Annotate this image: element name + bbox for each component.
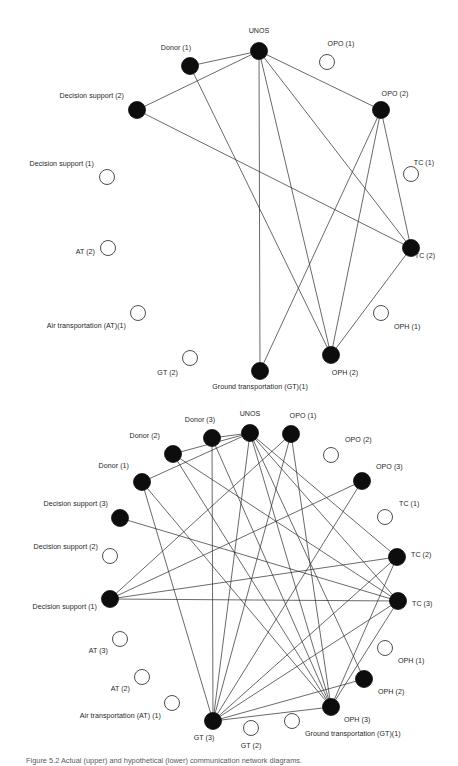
network-edge [142, 482, 213, 721]
network-node-opo2[interactable] [373, 102, 390, 119]
network-node-donor3[interactable] [204, 430, 221, 447]
node-label-tc2: TC (2) [415, 252, 435, 260]
network-edge [250, 433, 331, 707]
network-edge [110, 481, 362, 599]
network-node-gt3[interactable] [205, 713, 222, 730]
network-edge [137, 110, 411, 248]
node-label-tc2: TC (2) [411, 551, 431, 559]
network-node-unos[interactable] [242, 425, 259, 442]
network-edge [259, 51, 331, 355]
network-node-opo3[interactable] [354, 473, 371, 490]
network-node-at1[interactable] [165, 696, 180, 711]
network-node-tc1[interactable] [404, 167, 419, 182]
network-node-unos[interactable] [251, 43, 268, 60]
network-edge [120, 518, 398, 601]
node-label-gt3: GT (3) [194, 734, 215, 742]
node-label-donor1: Donor (1) [161, 44, 191, 52]
node-label-oph1: OPH (1) [394, 323, 420, 331]
node-label-ds2: Decision support (2) [60, 92, 124, 100]
network-node-oph2[interactable] [323, 347, 340, 364]
network-node-at3[interactable] [113, 632, 128, 647]
node-label-tc1: TC (1) [414, 159, 434, 167]
network-edge [110, 557, 397, 599]
node-label-opo1: OPO (1) [290, 412, 317, 420]
node-label-gt2: GT (2) [241, 742, 262, 750]
node-label-tc1: TC (1) [399, 500, 419, 508]
network-node-opo2[interactable] [324, 448, 339, 463]
network-node-oph1[interactable] [374, 306, 389, 321]
node-label-gt2: GT (2) [157, 369, 178, 377]
node-label-opo3: OPO (3) [376, 463, 403, 471]
network-edge [190, 66, 331, 355]
network-edge [173, 454, 331, 707]
node-label-ds1: Decision support (1) [33, 603, 97, 611]
network-node-gt2[interactable] [183, 351, 198, 366]
network-edge [260, 110, 381, 371]
network-edge [190, 51, 259, 66]
network-edge [212, 438, 331, 707]
node-label-at1: Air transportation (AT) (1) [80, 712, 161, 720]
network-node-donor1[interactable] [134, 474, 151, 491]
node-label-ds2: Decision support (2) [34, 543, 98, 551]
node-label-ds1: Decision support (1) [30, 160, 94, 168]
node-label-unos: UNOS [249, 27, 270, 35]
network-edge [331, 248, 411, 355]
node-label-opo1: OPO (1) [328, 40, 355, 48]
network-edge [250, 433, 364, 679]
network-node-opo1[interactable] [320, 55, 335, 70]
network-node-opo1[interactable] [283, 426, 300, 443]
figure-container: UNOSDonor (1)OPO (1)Decision support (2)… [0, 0, 458, 766]
network-node-ds3[interactable] [112, 510, 129, 527]
node-label-at2: AT (2) [76, 248, 95, 256]
node-label-unos: UNOS [240, 410, 261, 418]
network-node-gt1[interactable] [252, 363, 269, 380]
network-edge [259, 51, 260, 371]
network-node-tc2[interactable] [389, 549, 406, 566]
node-label-oph3: OPH (3) [344, 716, 370, 724]
network-node-ds1[interactable] [102, 591, 119, 608]
network-node-at2[interactable] [135, 670, 150, 685]
node-labels-layer: UNOSDonor (1)OPO (1)Decision support (2)… [30, 27, 436, 750]
network-edge [213, 481, 362, 721]
node-label-tc3: TC (3) [412, 600, 432, 608]
network-node-gt2[interactable] [244, 721, 259, 736]
node-label-donor2: Donor (2) [130, 432, 160, 440]
network-node-ds2[interactable] [103, 549, 118, 564]
node-label-donor3: Donor (3) [185, 416, 215, 424]
node-label-opo2: OPO (2) [345, 436, 372, 444]
node-label-gt1: Ground transportation (GT)(1) [305, 730, 401, 738]
node-label-oph2: OPH (2) [332, 369, 358, 377]
node-label-at3: AT (3) [89, 647, 108, 655]
node-label-donor1: Donor (1) [99, 462, 129, 470]
network-diagram-canvas: UNOSDonor (1)OPO (1)Decision support (2)… [0, 0, 458, 766]
node-label-oph2: OPH (2) [378, 688, 404, 696]
network-node-tc3[interactable] [390, 593, 407, 610]
network-edge [110, 599, 398, 601]
network-node-ds1[interactable] [100, 170, 115, 185]
node-label-at1: Air transportation (AT)(1) [47, 322, 126, 330]
network-node-donor2[interactable] [165, 446, 182, 463]
network-node-ds2[interactable] [129, 102, 146, 119]
node-label-opo2: OPO (2) [382, 90, 409, 98]
network-node-at1[interactable] [131, 306, 146, 321]
node-label-ds3: Decision support (3) [44, 500, 108, 508]
node-label-oph1: OPH (1) [398, 657, 424, 665]
network-edge [142, 433, 250, 482]
network-edge [110, 434, 291, 599]
network-node-gt1[interactable] [285, 714, 300, 729]
network-edge [331, 110, 381, 355]
network-edge [259, 51, 411, 248]
network-node-oph3[interactable] [323, 699, 340, 716]
node-label-at2: AT (2) [111, 685, 130, 693]
node-label-gt1: Ground transportation (GT)(1) [212, 383, 308, 391]
network-edge [213, 707, 331, 721]
network-node-oph1[interactable] [378, 641, 393, 656]
network-node-donor1[interactable] [182, 58, 199, 75]
network-node-oph2[interactable] [356, 671, 373, 688]
network-edge [137, 51, 259, 110]
network-node-at2[interactable] [101, 241, 116, 256]
network-edge [213, 557, 397, 721]
figure-caption: Figure 5.2 Actual (upper) and hypothetic… [26, 756, 302, 766]
network-node-tc1[interactable] [378, 510, 393, 525]
